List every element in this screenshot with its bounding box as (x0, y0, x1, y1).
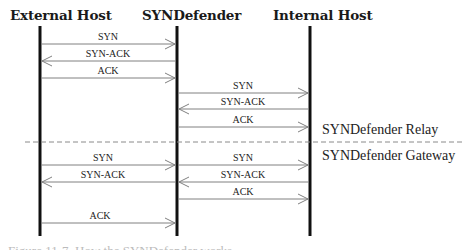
label-relay-synack-1: SYN-ACK (86, 48, 130, 59)
label-relay-ack-1: ACK (97, 65, 118, 76)
section-label-gateway: SYNDefender Gateway (322, 148, 455, 164)
label-gateway-synack-2: SYN-ACK (221, 169, 265, 180)
figure-caption: Figure 11-7. How the SYNDefender works (8, 243, 232, 250)
label-gateway-ack-2: ACK (232, 186, 253, 197)
participant-internal-host: Internal Host (273, 7, 372, 23)
participant-syndefender: SYNDefender (142, 7, 241, 23)
participant-external-host: External Host (10, 7, 112, 23)
label-gateway-ack-1: ACK (89, 210, 110, 221)
label-relay-synack-2: SYN-ACK (221, 96, 265, 107)
section-label-relay: SYNDefender Relay (322, 122, 438, 138)
label-gateway-syn-2: SYN (233, 152, 253, 163)
label-relay-syn-2: SYN (233, 80, 253, 91)
label-relay-ack-2: ACK (232, 114, 253, 125)
label-gateway-syn-1: SYN (93, 152, 113, 163)
label-gateway-synack-1: SYN-ACK (81, 169, 125, 180)
label-relay-syn-1: SYN (98, 31, 118, 42)
sequence-diagram: External Host SYNDefender Internal Host … (0, 0, 467, 250)
